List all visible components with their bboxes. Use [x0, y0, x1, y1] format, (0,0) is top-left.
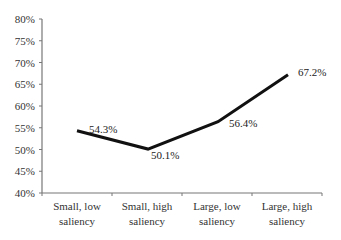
y-tick-label: 65% — [15, 78, 35, 90]
x-category-label: saliency — [59, 215, 96, 227]
line-chart: 40%45%50%55%60%65%70%75%80% Small, lowsa… — [0, 0, 341, 240]
y-tick-label: 70% — [15, 57, 35, 69]
y-tick-label: 50% — [15, 144, 35, 156]
y-tick-label: 40% — [15, 187, 35, 199]
x-category-label: saliency — [269, 215, 306, 227]
x-category-label: Small, low — [53, 200, 101, 212]
y-tick-label: 45% — [15, 165, 35, 177]
x-axis: Small, lowsaliencySmall, highsaliencyLar… — [42, 193, 322, 227]
data-labels: 54.3%50.1%56.4%67.2% — [89, 66, 326, 161]
y-axis: 40%45%50%55%60%65%70%75%80% — [15, 13, 42, 199]
data-series — [77, 75, 288, 149]
y-tick-label: 75% — [15, 35, 35, 47]
data-label: 50.1% — [151, 149, 179, 161]
data-label: 54.3% — [89, 123, 117, 135]
data-label: 56.4% — [229, 117, 257, 129]
y-tick-label: 80% — [15, 13, 35, 25]
x-category-label: Large, low — [193, 200, 241, 212]
data-label: 67.2% — [298, 66, 326, 78]
y-tick-label: 55% — [15, 122, 35, 134]
x-category-label: saliency — [199, 215, 236, 227]
x-category-label: saliency — [129, 215, 166, 227]
x-category-label: Large, high — [262, 200, 313, 212]
series-line — [77, 75, 288, 149]
x-category-label: Small, high — [122, 200, 173, 212]
y-tick-label: 60% — [15, 100, 35, 112]
